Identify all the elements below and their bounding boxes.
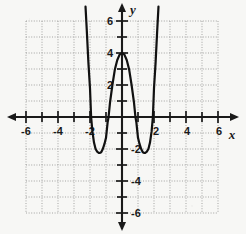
x-tick-label-pos4: 4 bbox=[184, 125, 191, 137]
y-tick-label-neg4: -4 bbox=[131, 175, 142, 187]
x-axis-title: x bbox=[228, 127, 236, 142]
y-tick-label-neg6: -6 bbox=[131, 207, 141, 219]
x-tick-label-pos6: 6 bbox=[216, 125, 222, 137]
x-tick-label-neg4: -4 bbox=[53, 125, 64, 137]
x-tick-label-pos2: 2 bbox=[153, 125, 159, 137]
y-axis-title: y bbox=[128, 2, 136, 17]
graph-figure: -6 -4 -2 2 4 6 6 4 2 -2 -4 -6 x y bbox=[0, 0, 246, 234]
x-tick-label-neg6: -6 bbox=[21, 125, 31, 137]
y-tick-label-pos6: 6 bbox=[107, 15, 113, 27]
coordinate-plane-svg: -6 -4 -2 2 4 6 6 4 2 -2 -4 -6 x y bbox=[0, 0, 246, 234]
y-tick-label-pos4: 4 bbox=[107, 47, 114, 59]
